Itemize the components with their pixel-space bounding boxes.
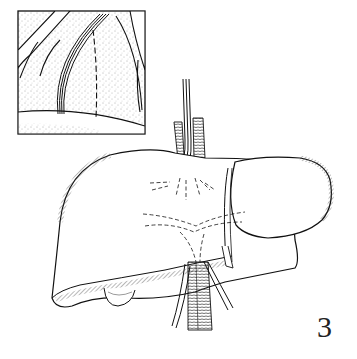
liver-illustration (0, 0, 357, 359)
inset-detail (18, 11, 145, 134)
figure-number: 3 (317, 312, 332, 342)
